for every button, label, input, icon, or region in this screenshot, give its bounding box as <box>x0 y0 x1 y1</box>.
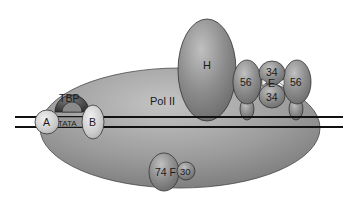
tfiif-small-label: 30 <box>180 166 191 177</box>
tbp-label: TBP <box>59 92 79 104</box>
tfiie-56-left-label: 56 <box>240 76 252 88</box>
tfiib-label: B <box>89 116 96 128</box>
tfiie-56-right-label: 56 <box>290 76 302 88</box>
tfiih-label: H <box>203 59 211 71</box>
tfiia-label: A <box>43 116 50 128</box>
preinitiation-complex-diagram: Pol II H TBP TATA A B 56 56 34 34 E 74 F… <box>0 0 355 205</box>
tata-label: TATA <box>58 119 77 128</box>
tfiif-large-label: 74 F <box>155 166 176 178</box>
pol2-label: Pol II <box>150 95 175 107</box>
tfiie-e-label: E <box>268 77 275 89</box>
tfiie-34-bottom-label: 34 <box>266 91 278 103</box>
